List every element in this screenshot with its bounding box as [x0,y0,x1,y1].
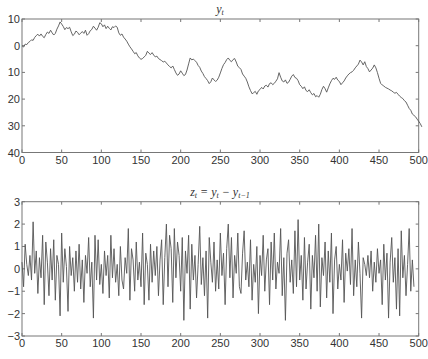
series-yt-line [22,22,422,127]
y-tick-label: 40 [8,147,20,159]
y-tick-label: 1 [14,240,20,252]
panel-yt-title: yt [215,2,224,17]
panel-yt-y-axis: 10010203040 [8,13,419,159]
y-tick-label: 30 [8,120,20,132]
x-tick-label: 200 [172,154,190,166]
y-tick-label: 0 [14,263,20,275]
x-tick-label: 100 [92,337,110,349]
x-tick-label: 500 [410,154,428,166]
y-tick-label: 20 [8,93,20,105]
y-tick-label: 0 [14,40,20,52]
x-tick-label: 150 [132,337,150,349]
panel-zt-title: zt = yt − yt−1 [189,185,250,200]
y-tick-label: 10 [8,13,20,25]
y-tick-label: 2 [14,218,20,230]
y-tick-label: 10 [8,66,20,78]
x-tick-label: 200 [172,337,190,349]
x-tick-label: 250 [211,154,229,166]
series-zt-line [22,220,414,321]
x-tick-label: 350 [291,154,309,166]
x-tick-label: 50 [56,154,68,166]
x-tick-label: 150 [132,154,150,166]
y-tick-label: −2 [7,308,20,320]
y-tick-label: 3 [14,196,20,208]
x-tick-label: 450 [370,154,388,166]
chart-canvas: yt 050100150200250300350400450500 100102… [0,0,428,359]
panel-yt-x-axis: 050100150200250300350400450500 [19,19,428,166]
x-tick-label: 50 [56,337,68,349]
x-tick-label: 100 [92,154,110,166]
x-tick-label: 400 [330,337,348,349]
y-tick-label: −1 [7,285,20,297]
x-tick-label: 300 [251,337,269,349]
panel-yt: yt 050100150200250300350400450500 100102… [8,2,428,166]
x-tick-label: 500 [410,337,428,349]
panel-yt-axes-frame [22,19,419,153]
x-tick-label: 250 [211,337,229,349]
x-tick-label: 300 [251,154,269,166]
x-tick-label: 400 [330,154,348,166]
figure: yt 050100150200250300350400450500 100102… [0,0,428,359]
x-tick-label: 450 [370,337,388,349]
panel-zt: zt = yt − yt−1 0501001502002503003504004… [7,185,427,349]
y-tick-label: −3 [7,330,20,342]
x-tick-label: 350 [291,337,309,349]
